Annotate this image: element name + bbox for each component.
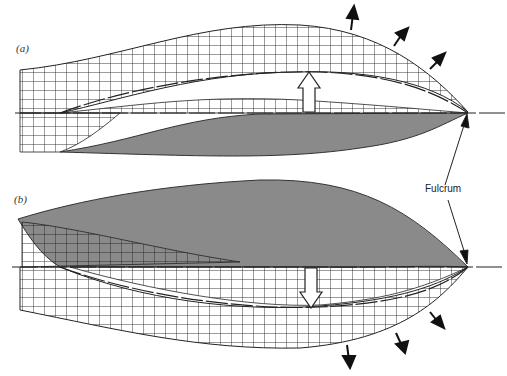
panel-a: [15, 6, 505, 156]
panel-b-label: (b): [14, 193, 27, 205]
panel-b: [12, 180, 505, 368]
diagram: (a) (b) Fulcrum: [0, 0, 507, 376]
fulcrum-label: Fulcrum: [425, 183, 461, 194]
panel-a-label: (a): [16, 42, 29, 54]
